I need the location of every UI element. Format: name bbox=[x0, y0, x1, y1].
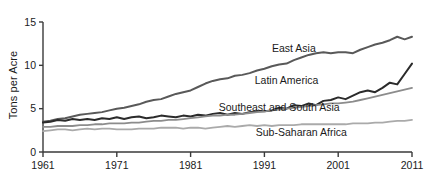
y-axis-ticks: 051015 bbox=[24, 16, 43, 158]
series-label: Southeast and South Asia bbox=[219, 101, 340, 113]
axis-lines bbox=[43, 22, 412, 152]
y-tick-label: 0 bbox=[30, 146, 36, 158]
x-tick-label: 2011 bbox=[401, 159, 424, 171]
x-tick-label: 1961 bbox=[31, 159, 55, 171]
x-tick-label: 1981 bbox=[179, 159, 203, 171]
y-tick-label: 15 bbox=[24, 16, 36, 28]
x-tick-label: 1991 bbox=[253, 159, 277, 171]
data-series-group bbox=[43, 37, 412, 131]
y-tick-label: 10 bbox=[24, 59, 36, 71]
series-label: Sub-Saharan Africa bbox=[256, 126, 347, 138]
y-tick-label: 5 bbox=[30, 102, 36, 114]
series-label: Latin America bbox=[255, 74, 319, 86]
x-axis-ticks: 196119711981199120012011 bbox=[31, 152, 423, 171]
series-line bbox=[43, 120, 412, 131]
chart-figure: Tons per Acre 051015 1961197119811991200… bbox=[0, 0, 428, 187]
series-label: East Asia bbox=[272, 42, 316, 54]
x-tick-label: 2001 bbox=[327, 159, 351, 171]
series-line bbox=[43, 64, 412, 123]
x-tick-label: 1971 bbox=[105, 159, 129, 171]
line-chart-plot: 051015 196119711981199120012011 East Asi… bbox=[0, 0, 428, 187]
